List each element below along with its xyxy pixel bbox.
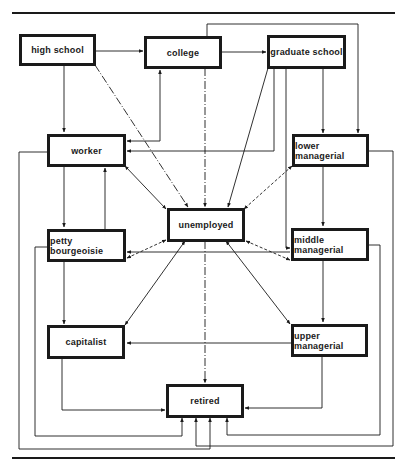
edge-unemployed-uppermanagerial — [226, 241, 290, 324]
node-high-school: high school — [19, 34, 96, 66]
edge-college-worker — [127, 70, 160, 141]
node-unemployed: unemployed — [167, 208, 245, 242]
edge-unemployed-capitalist — [125, 241, 185, 325]
node-upper-managerial: upper managerial — [291, 324, 368, 357]
edge-capitalist-retired — [62, 358, 165, 410]
node-petty-bourgeoisie: petty bourgeoisie — [47, 229, 126, 262]
node-label: middle managerial — [294, 235, 366, 255]
edge-middlemanagerial-unemployed — [246, 241, 290, 260]
node-middle-managerial: middle managerial — [291, 228, 369, 261]
edge-petty-unemployed — [127, 240, 166, 258]
node-label: capitalist — [65, 337, 106, 347]
node-label: upper managerial — [294, 331, 365, 351]
node-label: lower managerial — [295, 141, 366, 161]
node-label: retired — [190, 396, 219, 406]
edge-lowermanagerial-unemployed — [244, 166, 292, 209]
node-label: petty bourgeoisie — [50, 236, 123, 256]
node-retired: retired — [166, 384, 244, 418]
edge-worker-unemployed — [125, 166, 166, 209]
edge-uppermanagerial-retired — [245, 356, 322, 408]
edge-gradschool-worker — [127, 68, 274, 151]
node-label: worker — [71, 146, 102, 156]
node-label: college — [167, 48, 199, 58]
node-lower-managerial: lower managerial — [292, 134, 369, 167]
edge-gradschool-middlemanagerial — [286, 68, 290, 248]
node-capitalist: capitalist — [47, 325, 125, 359]
node-college: college — [144, 36, 222, 69]
edge-gradschool-unemployed — [228, 68, 268, 207]
node-label: high school — [31, 45, 84, 55]
node-worker: worker — [47, 134, 126, 167]
node-graduate-school: graduate school — [267, 35, 346, 69]
node-label: unemployed — [178, 220, 233, 230]
node-label: graduate school — [270, 47, 343, 57]
